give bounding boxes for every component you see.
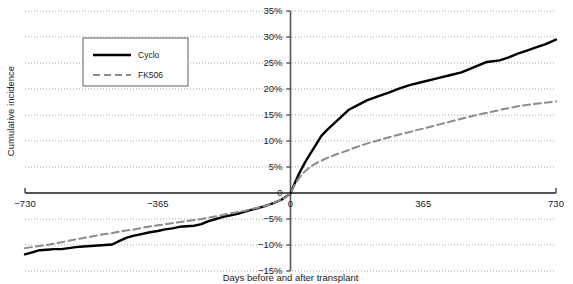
- legend: CycloFK506: [83, 38, 188, 86]
- y-tick-label: 25%: [263, 57, 283, 68]
- x-tick-label: −365: [147, 198, 168, 209]
- legend-box: [83, 38, 188, 86]
- legend-label-cyclo: Cyclo: [138, 50, 160, 60]
- y-tick-label: −10%: [258, 239, 283, 250]
- y-tick-label: 10%: [263, 135, 283, 146]
- y-tick-label: 35%: [263, 5, 283, 16]
- chart-container: 35%30%25%20%15%10%5%0−5%−10%−15%−730−365…: [0, 0, 573, 284]
- y-tick-label: 0: [277, 187, 282, 198]
- y-tick-label: 30%: [263, 31, 283, 42]
- x-tick-label: 365: [415, 198, 431, 209]
- x-tick-label: −730: [14, 198, 35, 209]
- y-tick-label: 15%: [263, 109, 283, 120]
- cumulative-incidence-chart: 35%30%25%20%15%10%5%0−5%−10%−15%−730−365…: [0, 0, 573, 284]
- y-tick-label: −5%: [263, 213, 283, 224]
- legend-label-fk506: FK506: [138, 70, 163, 80]
- y-axis-title: Cumulative incidence: [5, 66, 16, 156]
- y-tick-label: 5%: [269, 161, 283, 172]
- x-tick-label: 730: [548, 198, 564, 209]
- x-axis-title: Days before and after transplant: [223, 272, 359, 283]
- x-tick-label: 0: [288, 198, 293, 209]
- y-tick-label: 20%: [263, 83, 283, 94]
